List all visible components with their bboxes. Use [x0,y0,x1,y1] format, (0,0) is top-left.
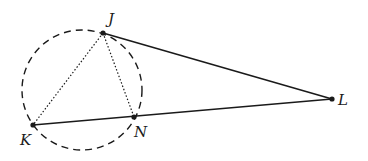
geometry-diagram: J K N L [0,0,368,161]
point-j [100,30,105,35]
point-k [30,122,35,127]
label-j: J [105,10,115,28]
segment-kl [33,99,332,125]
segment-jn [103,33,134,117]
point-n [131,114,136,119]
segment-jk [33,33,103,125]
label-l: L [337,91,348,109]
label-k: K [19,131,32,149]
label-n: N [133,123,148,141]
point-l [329,96,334,101]
